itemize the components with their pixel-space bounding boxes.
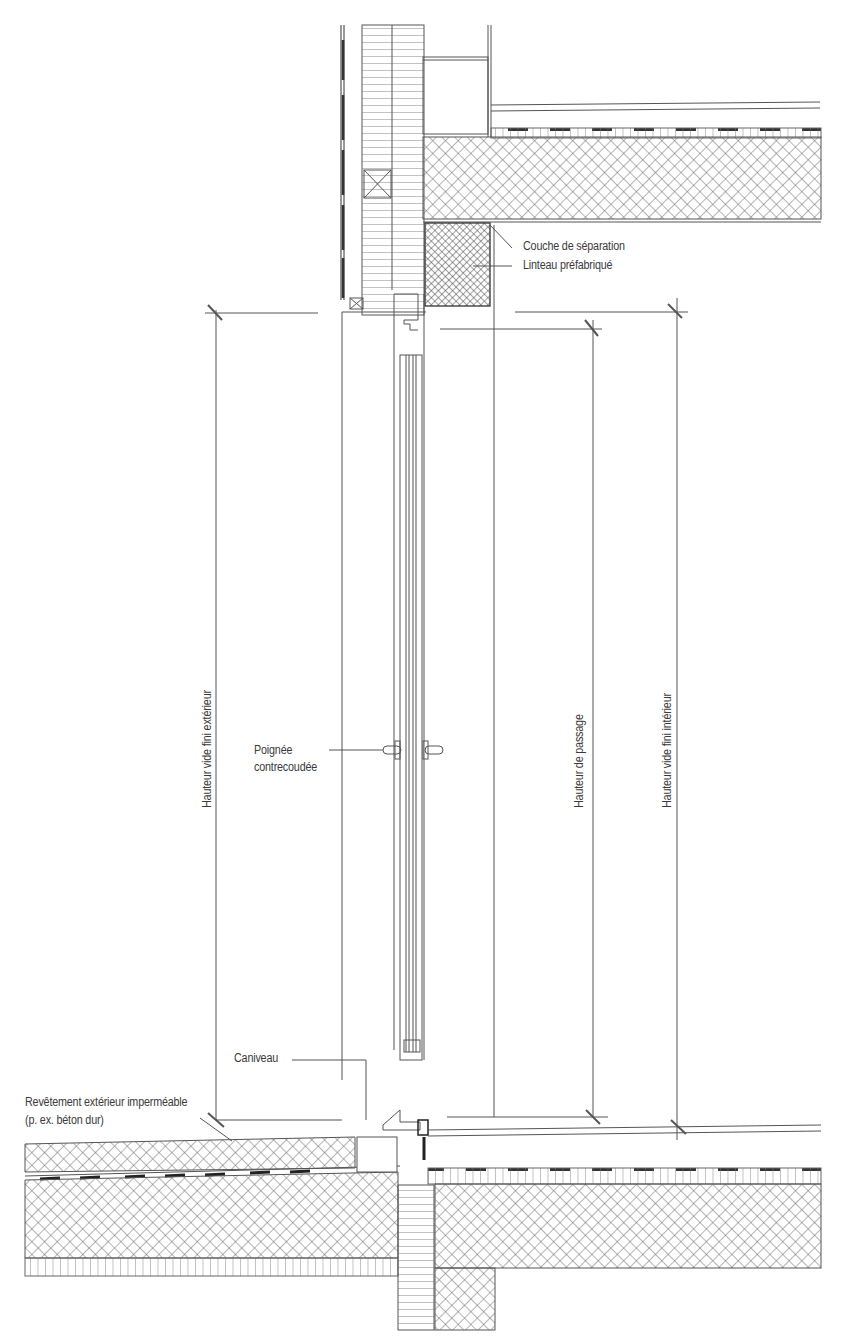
section-drawing (0, 0, 849, 1344)
masonry-wall-upper (350, 25, 424, 315)
lintel (425, 223, 490, 306)
dimension-ext (205, 305, 342, 1127)
label-caniveau: Caniveau (234, 1050, 278, 1066)
upper-floor-slab (423, 25, 821, 222)
wall-lower (398, 1185, 434, 1330)
dim-label-ext: Hauteur vide fini extérieur (200, 690, 214, 808)
label-revetement-2: (p. ex. béton dur) (25, 1112, 104, 1128)
dim-label-int: Hauteur vide fini intérieur (660, 693, 674, 808)
label-linteau: Linteau préfabriqué (523, 257, 612, 273)
exterior-pavement (25, 1137, 400, 1276)
dim-label-passage: Hauteur de passage (572, 714, 586, 808)
top-wall-cladding (341, 25, 344, 300)
leader-lines (200, 225, 512, 1141)
door-leaf (400, 355, 422, 1060)
label-poignee-2: contrecoudée (254, 759, 317, 775)
label-poignee-1: Poignée (254, 742, 292, 758)
label-revetement-1: Revêtement extérieur imperméable (25, 1094, 187, 1110)
interior-floor (428, 1125, 821, 1330)
label-couche-separation: Couche de séparation (523, 238, 625, 254)
